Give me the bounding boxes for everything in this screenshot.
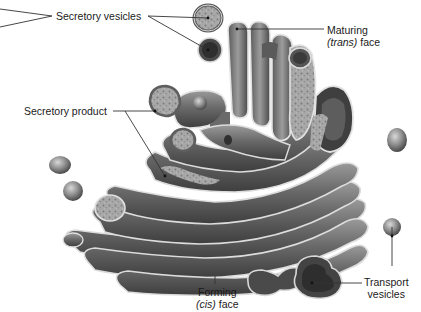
label-maturing-line1: Maturing [327, 24, 380, 36]
label-secretory-vesicles: Secretory vesicles [56, 10, 141, 22]
label-transport-vesicles: Transport vesicles [364, 276, 409, 300]
label-secretory-product: Secretory product [24, 105, 107, 117]
label-trans-italic: (trans) [327, 36, 357, 48]
label-transport-line2: vesicles [364, 288, 409, 300]
label-forming-line2: (cis) face [196, 298, 239, 310]
label-transport-line1: Transport [364, 276, 409, 288]
label-maturing-line2: (trans) face [327, 36, 380, 48]
label-forming-line1: Forming [196, 286, 239, 298]
label-maturing-face: Maturing (trans) face [327, 24, 380, 48]
label-trans-rest: face [357, 36, 380, 48]
label-cis-rest: face [216, 298, 239, 310]
label-forming-face: Forming (cis) face [196, 286, 239, 310]
label-cis-italic: (cis) [196, 298, 216, 310]
